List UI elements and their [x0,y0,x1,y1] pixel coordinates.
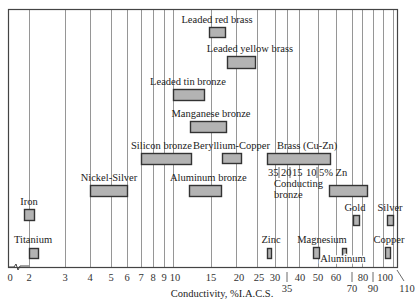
bar-label: Nickel-Silver [81,172,138,183]
range-bar-manganese-bronze [191,122,227,133]
x-tick-label: 10 [170,272,181,283]
zinc-percent-label: 35 [268,167,279,178]
x-tick-label: 7 [138,272,143,283]
bar-label: Leaded yellow brass [207,43,293,54]
bar-label: Conducting [274,178,324,189]
range-bar-magnesium [314,248,320,259]
zinc-percent-label: 10 [306,167,317,178]
bar-label: Leaded red brass [181,14,252,25]
x-tick-label: 40 [295,272,306,283]
x-tick-label: 100 [377,272,393,283]
x-tick-label: 0 [7,272,12,283]
bar-label: Titanium [14,234,52,245]
range-bar-aluminum-bronze [190,186,222,197]
range-bar-copper [386,248,391,259]
bar-label: Iron [20,196,38,207]
range-bar-nickel-silver [91,186,128,197]
bar-label: bronze [274,189,303,200]
x-tick-label: 35 [282,283,293,294]
bar-label: Beryllium-Copper [193,140,270,151]
x-tick-label: 90 [368,283,379,294]
x-tick-label: 2 [26,272,31,283]
x-tick-label: 5 [108,272,113,283]
bar-label: Aluminum bronze [170,172,247,183]
x-tick-label: 60 [331,272,342,283]
x-tick-label: 9 [161,272,166,283]
bar-label: Magnesium [297,234,347,245]
range-bar-silver [388,216,394,226]
zinc-percent-label: 5% Zn [319,167,348,178]
range-bar-iron [25,210,35,221]
x-tick-label: 110 [399,283,414,294]
bar-label: Brass (Cu-Zn) [277,140,338,152]
bar-label: Silicon bronze [131,140,192,151]
plot-frame [9,10,398,268]
range-bar-silicon-bronze [142,154,192,165]
conductivity-chart: Leaded red brassLeaded yellow brassLeade… [0,0,418,301]
x-tick-label: 70 [347,283,358,294]
x-tick-label: 6 [124,272,129,283]
range-bar-leaded-yellow-brass [228,57,256,69]
tick-110-leader [397,270,404,281]
x-tick-label: 15 [206,272,217,283]
labels-group: Leaded red brassLeaded yellow brassLeade… [14,14,405,264]
bar-label: Copper [374,234,405,245]
bar-label: Gold [345,202,367,213]
zinc-percent-label: 15 [292,167,303,178]
range-bar-leaded-tin-bronze [174,90,205,101]
range-bar-conducting-bronze [330,186,368,197]
x-tick-label: 80 [358,272,369,283]
x-tick-label: 4 [87,272,93,283]
bar-label: Manganese bronze [171,108,250,119]
bar-label: Silver [377,202,403,213]
bar-label: Zinc [261,234,281,245]
bar-label: Aluminum [320,253,366,264]
x-tick-label: 25 [254,272,265,283]
range-bar-beryllium-copper [223,154,242,164]
x-tick-label: 50 [313,272,324,283]
bar-label: Leaded tin bronze [150,76,226,87]
range-bar-brass-cu-zn- [268,154,331,165]
range-bar-zinc [268,249,272,259]
range-bar-gold [354,216,360,226]
x-tick-label: 3 [62,272,67,283]
x-axis-label: Conductivity, %I.A.C.S. [171,288,274,299]
x-tick-label: 30 [270,272,281,283]
x-tick-label: 20 [234,272,245,283]
range-bar-titanium [30,249,39,259]
range-bar-leaded-red-brass [210,28,226,38]
x-tick-label: 8 [150,272,155,283]
